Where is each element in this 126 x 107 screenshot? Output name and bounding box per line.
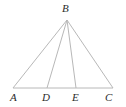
- vertex-label-b: B: [62, 3, 69, 14]
- vertex-label-a: A: [10, 92, 17, 103]
- segment-bd-cevian: [47, 20, 67, 88]
- vertex-label-d: D: [42, 92, 50, 103]
- geometry-figure: B A D E C: [0, 0, 126, 107]
- vertex-label-e: E: [72, 92, 79, 103]
- segment-be-cevian: [67, 20, 76, 88]
- vertex-label-c: C: [105, 92, 112, 103]
- segment-bc: [67, 20, 113, 88]
- segment-ab: [13, 20, 67, 88]
